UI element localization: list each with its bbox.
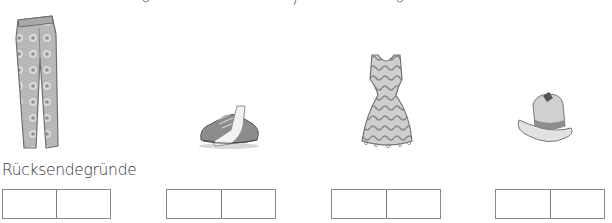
answer-box-1 [2, 189, 111, 219]
answer-cell[interactable] [332, 190, 386, 218]
cutoff-text-line [0, 0, 612, 6]
answer-cell[interactable] [167, 190, 221, 218]
answer-box-2 [166, 189, 276, 219]
dress-illustration [358, 53, 416, 151]
sneaker-illustration [195, 104, 265, 152]
answer-box-4 [495, 189, 605, 219]
answer-box-3 [331, 189, 441, 219]
section-label: Rücksendegründe [2, 161, 136, 179]
answer-cell[interactable] [386, 190, 441, 218]
hat-illustration [515, 90, 579, 148]
trousers-illustration [12, 14, 66, 150]
answer-cell[interactable] [56, 190, 110, 218]
answer-cell[interactable] [3, 190, 56, 218]
answer-cell[interactable] [550, 190, 605, 218]
answer-cell[interactable] [221, 190, 276, 218]
answer-cell[interactable] [496, 190, 550, 218]
